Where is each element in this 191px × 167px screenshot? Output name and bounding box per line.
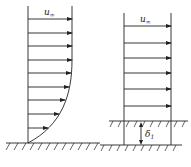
uniform-velocity-arrows: [124, 26, 171, 106]
boundary-layer-diagram: u∞: [0, 0, 191, 167]
left-wall-hatch: [6, 143, 98, 150]
velocity-arrows: [28, 19, 72, 128]
right-freestream-label: u∞: [140, 14, 151, 25]
right-profile: [100, 13, 188, 151]
displacement-thickness-label: δ1: [145, 129, 154, 140]
left-freestream-label: u∞: [44, 7, 55, 18]
velocity-profile-curve: [28, 6, 72, 143]
displaced-wall-hatch: [110, 121, 185, 127]
actual-wall-hatch: [101, 145, 176, 151]
left-profile: [6, 6, 100, 150]
